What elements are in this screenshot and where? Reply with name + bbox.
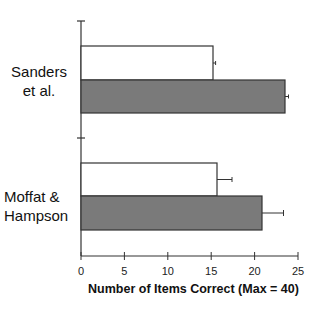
svg-text:5: 5 [121,265,127,277]
bar-sanders-gray [81,80,285,113]
category-label-line: Sanders [8,62,70,81]
category-label-moffat: Moffat & Hampson [4,187,78,225]
category-label-line: et al. [8,81,70,100]
x-axis-label: Number of Items Correct (Max = 40) [60,282,327,296]
category-label-line: Moffat & [4,187,78,206]
svg-text:20: 20 [248,265,260,277]
bar-moffat-white [81,163,217,196]
bar-sanders-white [81,46,213,80]
category-label-line: Hampson [4,206,78,225]
bar-moffat-gray [81,196,262,230]
svg-text:10: 10 [162,265,174,277]
svg-text:25: 25 [292,265,304,277]
svg-text:15: 15 [205,265,217,277]
bar-chart: 0 5 10 15 20 25 [0,0,327,310]
svg-text:0: 0 [78,265,84,277]
category-label-sanders: Sanders et al. [8,62,70,100]
